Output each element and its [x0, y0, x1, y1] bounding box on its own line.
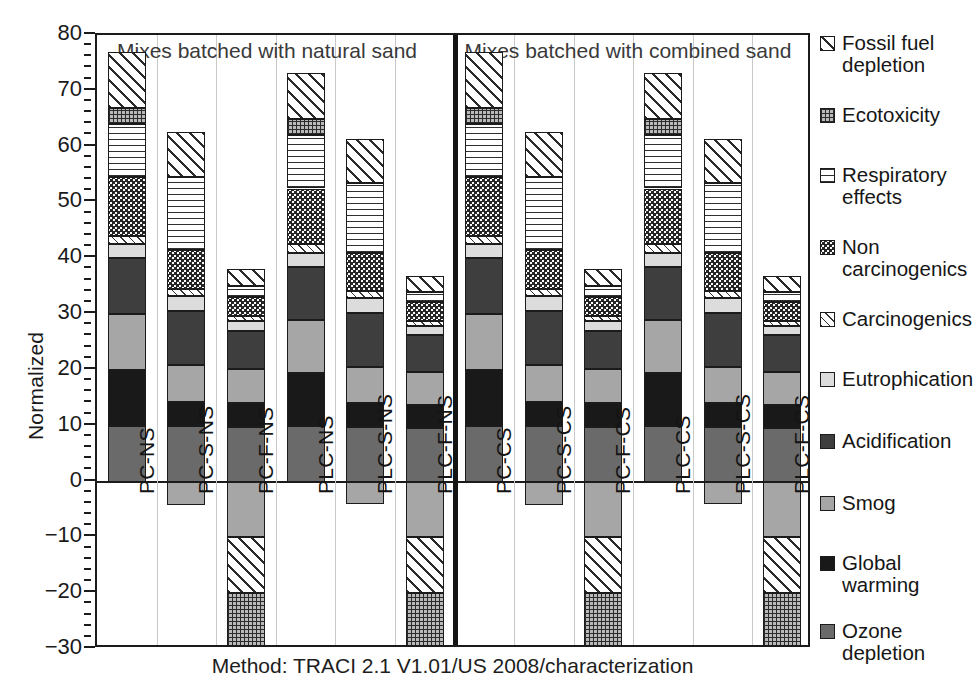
y-tick-minor — [84, 456, 91, 458]
bar[interactable] — [167, 35, 205, 647]
y-tick-minor — [84, 546, 91, 548]
y-tick-minor — [84, 389, 91, 391]
y-tick-minor — [84, 289, 91, 291]
bar-segment-acid — [465, 258, 503, 314]
y-tick-minor — [84, 121, 91, 123]
bar-segment-fossil — [763, 276, 801, 292]
bar-segment-noncarc — [108, 177, 146, 236]
bar-segment-resp — [346, 183, 384, 253]
slot-divider — [752, 35, 753, 645]
legend-swatch-smog-icon — [820, 496, 835, 511]
legend-label: Ozone depletion — [842, 620, 978, 664]
bar-segment-eco — [644, 119, 682, 135]
bar-segment-noncarc — [287, 189, 325, 245]
bar-segment-fossil — [227, 269, 265, 286]
legend-item-eco[interactable]: Ecotoxicity — [820, 104, 940, 126]
legend-item-ozone[interactable]: Ozone depletion — [820, 620, 978, 664]
bar-segment-smog — [108, 314, 146, 370]
x-category-label: PLC-CS — [671, 415, 695, 494]
bar-segment-resp — [704, 183, 742, 253]
bar-segment-carc — [763, 321, 801, 325]
y-axis-ticks — [84, 0, 95, 698]
bar[interactable] — [108, 35, 146, 647]
bar[interactable] — [525, 35, 563, 647]
bar-segment-acid — [704, 313, 742, 367]
bar-segment-fossil — [406, 276, 444, 292]
y-tick-label: −10 — [28, 524, 82, 546]
bar-segment-resp — [406, 292, 444, 303]
bar-segment-negative-fossil — [227, 537, 265, 593]
bar[interactable] — [287, 35, 325, 647]
bar-segment-carc — [704, 291, 742, 298]
bar-segment-smog — [227, 369, 265, 404]
bar-segment-acid — [227, 331, 265, 369]
y-tick-minor — [84, 166, 91, 168]
x-category-label: PC-NS — [135, 427, 159, 494]
x-category-label: PC-S-CS — [552, 405, 576, 493]
bar-segment-carc — [227, 316, 265, 320]
bar-segment-smog — [287, 320, 325, 373]
bar[interactable] — [584, 35, 622, 647]
y-tick-minor — [84, 568, 91, 570]
y-tick-label: 30 — [28, 301, 82, 323]
slot-divider — [514, 35, 515, 645]
y-tick-minor — [84, 300, 91, 302]
bar-segment-noncarc — [763, 302, 801, 321]
legend-item-resp[interactable]: Respiratory effects — [820, 164, 978, 208]
bar-segment-noncarc — [346, 253, 384, 291]
group-title-combined-sand: Mixes batched with combined sand — [465, 39, 792, 63]
y-tick-label: 80 — [28, 22, 82, 44]
slot-divider — [574, 35, 575, 645]
bar-segment-carc — [525, 289, 563, 296]
bar[interactable] — [227, 35, 265, 647]
y-tick-minor — [84, 132, 91, 134]
legend-item-noncarc[interactable]: Non carcinogenics — [820, 236, 978, 280]
bar[interactable] — [704, 35, 742, 647]
legend-item-smog[interactable]: Smog — [820, 492, 896, 514]
x-category-label: PLC-F-CS — [790, 394, 810, 493]
legend-label: Eutrophication — [842, 368, 973, 390]
bar[interactable] — [644, 35, 682, 647]
bar-segment-negative-fossil — [584, 537, 622, 593]
bar-segment-acid — [525, 311, 563, 365]
bar-segment-smog — [167, 365, 205, 402]
slot-divider — [633, 35, 634, 645]
bar-segment-eutro — [465, 244, 503, 258]
bar-segment-negative-eco — [406, 593, 444, 647]
legend-label: Ecotoxicity — [842, 104, 940, 126]
bar[interactable] — [763, 35, 801, 647]
bar-segment-acid — [287, 267, 325, 321]
bar-segment-negative-fossil — [763, 537, 801, 593]
y-tick-minor — [84, 613, 91, 615]
bar[interactable] — [346, 35, 384, 647]
bar-segment-eco — [465, 108, 503, 125]
y-tick-label: 40 — [28, 245, 82, 267]
y-tick-minor — [84, 356, 91, 358]
legend-item-acid[interactable]: Acidification — [820, 430, 951, 452]
bar-segment-fossil — [465, 52, 503, 108]
y-tick-minor — [84, 333, 91, 335]
bar-segment-acid — [763, 335, 801, 372]
y-tick-major — [84, 32, 95, 34]
x-category-label: PLC-NS — [314, 415, 338, 494]
bar-segment-carc — [287, 244, 325, 252]
y-tick-minor — [84, 77, 91, 79]
bar-segment-resp — [108, 124, 146, 177]
bar-segment-resp — [167, 177, 205, 250]
bar-segment-resp — [644, 135, 682, 188]
legend-item-eutro[interactable]: Eutrophication — [820, 368, 973, 390]
bar[interactable] — [465, 35, 503, 647]
y-tick-major — [84, 590, 95, 592]
bar-segment-eutro — [406, 326, 444, 335]
y-tick-minor — [84, 155, 91, 157]
chart-caption: Method: TRACI 2.1 V1.01/US 2008/characte… — [95, 654, 810, 678]
legend-item-fossil[interactable]: Fossil fuel depletion — [820, 32, 978, 76]
y-tick-minor — [84, 445, 91, 447]
bar-segment-acid — [167, 311, 205, 365]
legend-item-global[interactable]: Global warming — [820, 552, 978, 596]
bar[interactable] — [406, 35, 444, 647]
y-tick-minor — [84, 54, 91, 56]
y-tick-label: 10 — [28, 413, 82, 435]
bar-segment-noncarc — [227, 297, 265, 316]
legend-item-carc[interactable]: Carcinogenics — [820, 308, 972, 330]
